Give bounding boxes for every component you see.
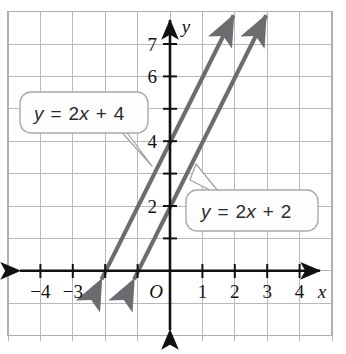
y-tick-2: 2: [148, 196, 158, 217]
y-axis-tick-labels: 7 6 4 2: [148, 34, 158, 217]
y-tick-6: 6: [148, 66, 158, 87]
callout-1-lhs: y: [32, 103, 45, 124]
y-tick-4: 4: [148, 131, 158, 152]
callout-2-coef: 2: [236, 201, 247, 222]
x-tick-3: 3: [262, 281, 272, 302]
coordinate-plane-figure: 7 6 4 2 −4 −3 1 2 3 4 O x y y=2x+4: [0, 0, 346, 354]
callout-2-constant: 2: [281, 201, 292, 222]
callout-1-coef: 2: [69, 103, 80, 124]
x-tick-minus-4: −4: [30, 281, 51, 302]
x-axis-label: x: [317, 281, 327, 302]
callout-1-eq: =: [51, 103, 62, 124]
callout-2-var: x: [245, 201, 257, 222]
callout-1-var: x: [78, 103, 90, 124]
plotted-lines: [102, 16, 267, 280]
x-tick-minus-3: −3: [63, 281, 83, 302]
origin-label: O: [149, 281, 163, 302]
line-y-2x-plus-4: [102, 16, 234, 280]
callout-2-eq: =: [218, 201, 229, 222]
x-axis-tick-labels: −4 −3 1 2 3 4: [30, 281, 305, 302]
y-tick-7: 7: [148, 34, 158, 55]
callout-line-1: y=2x+4: [20, 92, 152, 166]
callout-2-plus: +: [263, 201, 274, 222]
callout-1-plus: +: [96, 103, 107, 124]
x-tick-4: 4: [295, 281, 305, 302]
x-tick-2: 2: [230, 281, 240, 302]
callout-1-constant: 4: [114, 103, 125, 124]
callout-2-lhs: y: [199, 201, 212, 222]
x-tick-1: 1: [198, 281, 208, 302]
y-axis-label: y: [180, 16, 191, 37]
